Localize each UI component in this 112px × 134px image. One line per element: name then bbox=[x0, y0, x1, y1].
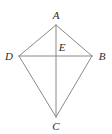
vertex-label-b: B bbox=[99, 51, 106, 62]
segment-d-c bbox=[19, 56, 56, 117]
geometry-figure: A D B C E bbox=[0, 0, 112, 134]
vertex-label-d: D bbox=[5, 51, 13, 62]
segment-a-d bbox=[19, 25, 56, 56]
kite-diagonals-group bbox=[19, 25, 92, 117]
segment-b-c bbox=[56, 56, 92, 117]
vertex-label-c: C bbox=[52, 121, 59, 132]
vertex-label-a: A bbox=[53, 10, 60, 21]
vertex-label-e: E bbox=[59, 42, 66, 53]
